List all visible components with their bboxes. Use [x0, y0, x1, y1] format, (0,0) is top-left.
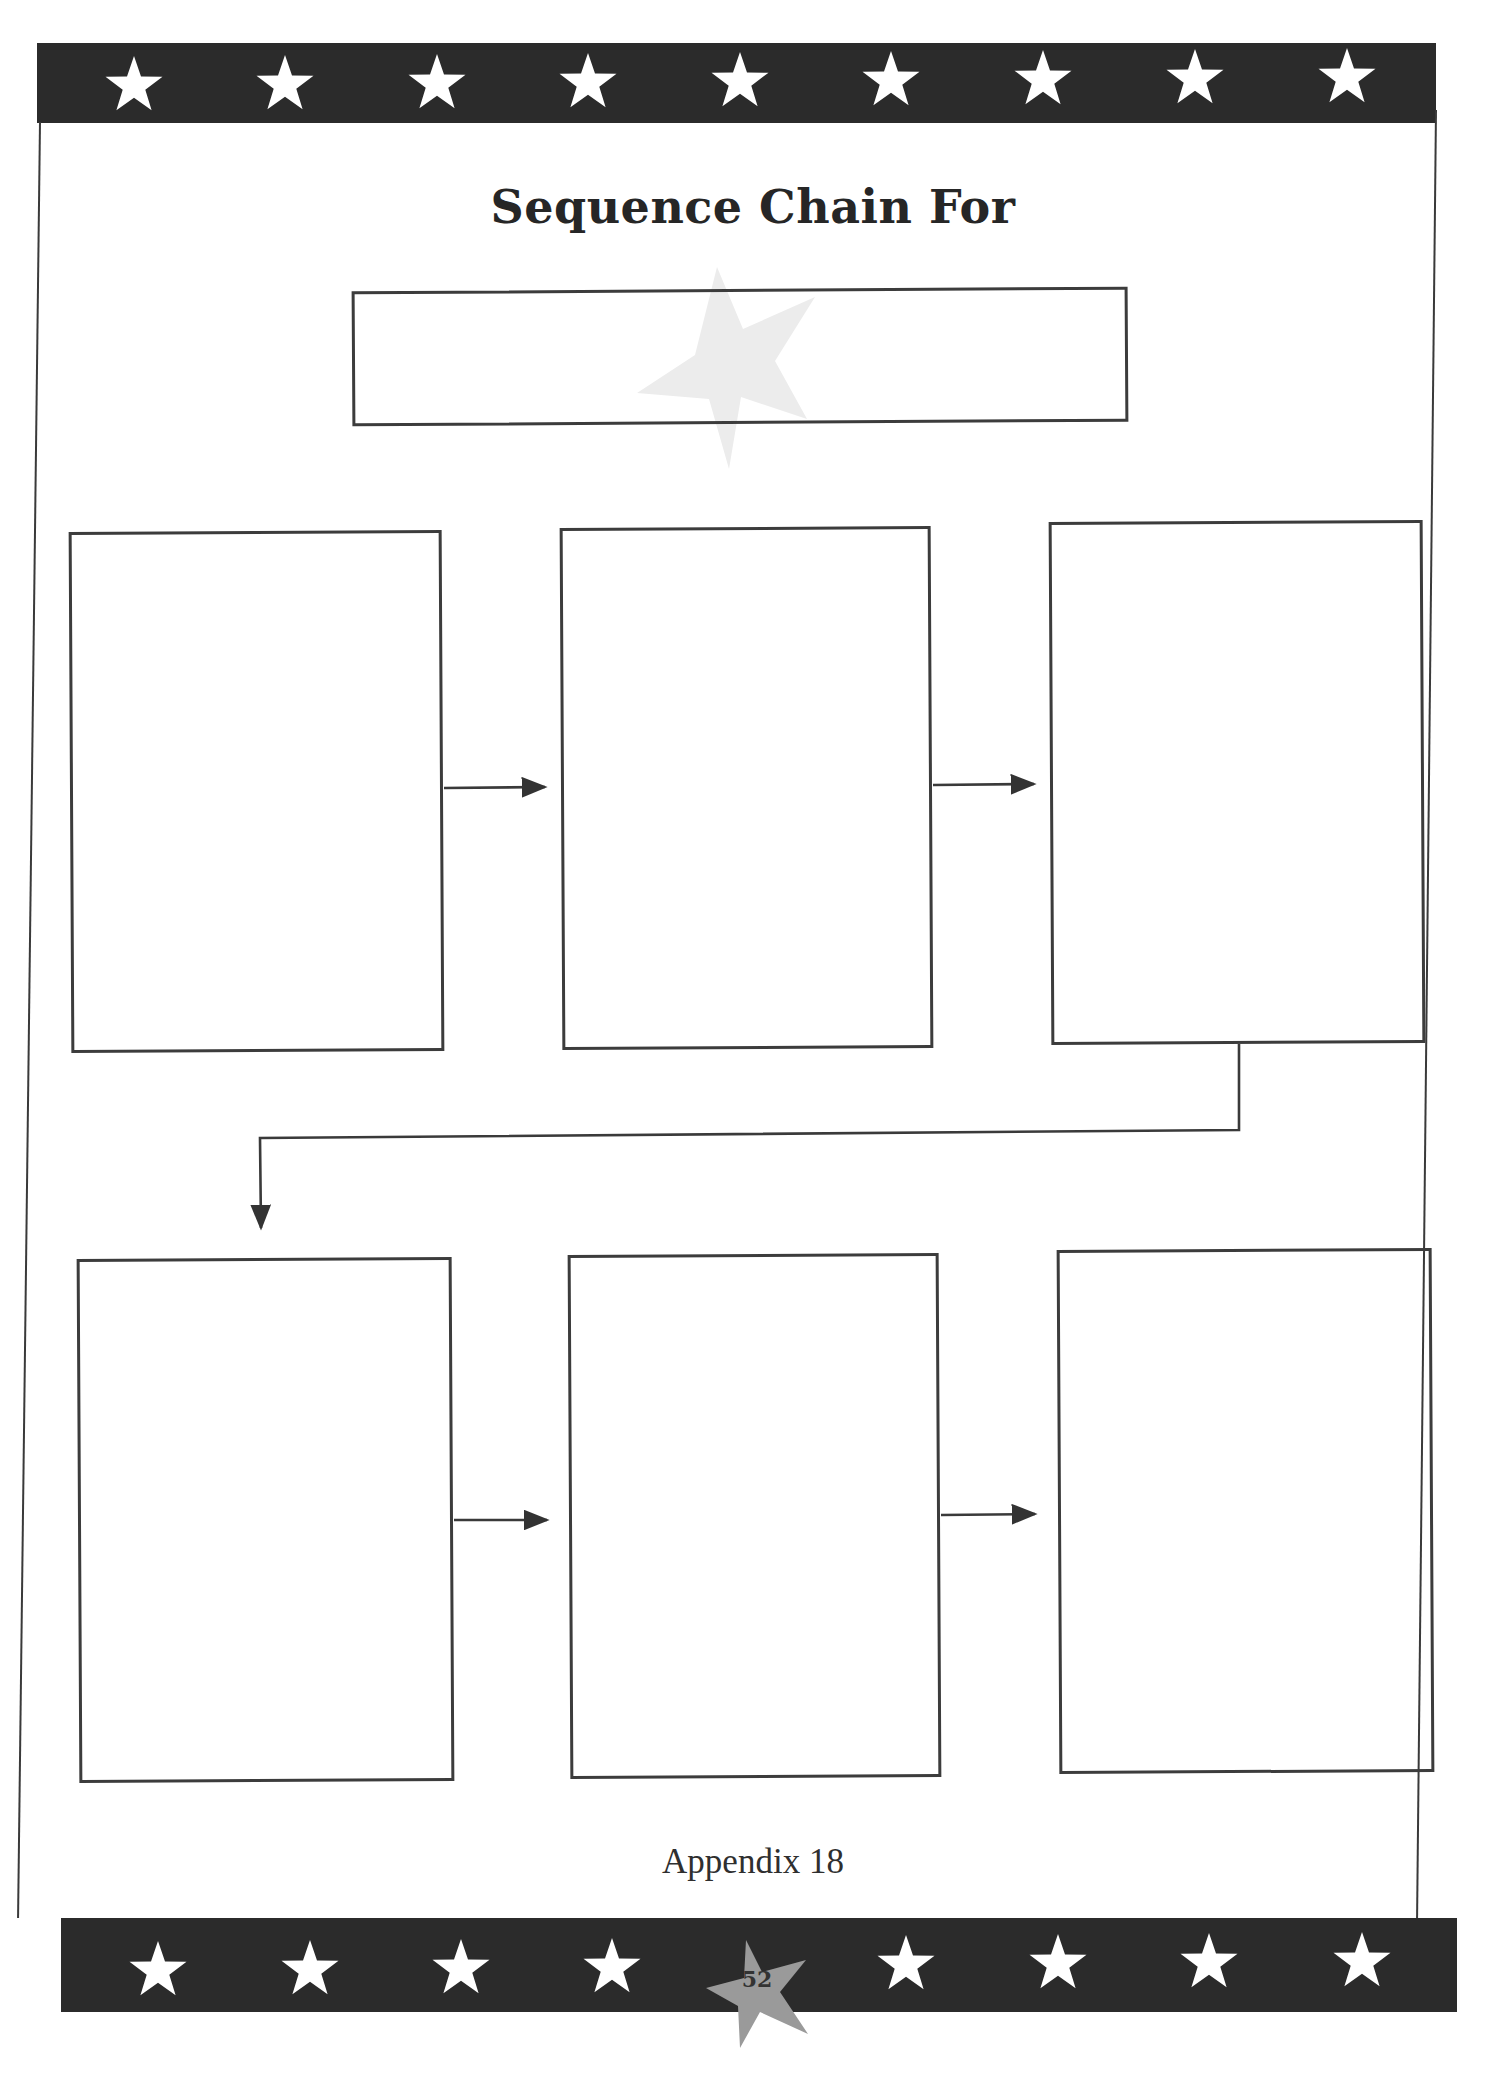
frame-left-border [17, 122, 41, 1918]
sequence-step-3[interactable] [1049, 520, 1426, 1045]
page-title: Sequence Chain For [0, 180, 1506, 234]
sequence-step-6[interactable] [1057, 1248, 1435, 1774]
appendix-label: Appendix 18 [0, 1842, 1506, 1882]
sequence-step-5[interactable] [568, 1253, 942, 1779]
top-star-band [37, 43, 1436, 123]
sequence-step-4[interactable] [77, 1257, 455, 1783]
arrow-right-icon [941, 1514, 1035, 1515]
arrow-right-icon [933, 784, 1034, 785]
sequence-step-2[interactable] [560, 526, 934, 1050]
arrow-down-connector-icon [260, 1044, 1239, 1228]
chain-topic-field[interactable] [352, 287, 1129, 427]
page-number: 52 [717, 1966, 797, 1992]
arrow-right-icon [444, 787, 545, 788]
top-band-stars-icon [37, 43, 1436, 123]
sequence-step-1[interactable] [69, 530, 445, 1053]
